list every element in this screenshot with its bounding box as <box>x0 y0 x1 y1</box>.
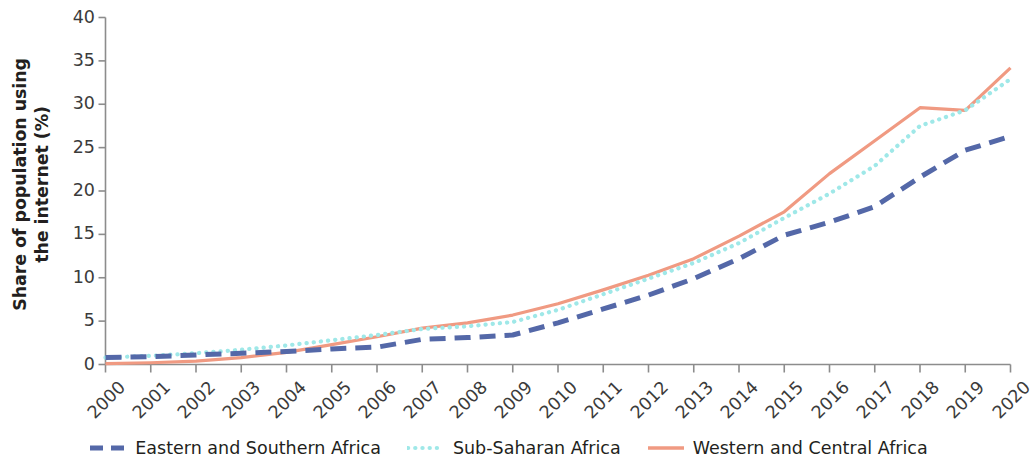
legend-item[interactable]: Western and Central Africa <box>647 438 928 458</box>
legend-swatch-icon <box>407 442 445 454</box>
legend-label: Eastern and Southern Africa <box>135 438 381 458</box>
axes <box>99 18 1011 373</box>
legend-item[interactable]: Eastern and Southern Africa <box>89 438 381 458</box>
legend-label: Sub-Saharan Africa <box>453 438 621 458</box>
chart-legend: Eastern and Southern AfricaSub-Saharan A… <box>0 433 1017 462</box>
series-line <box>106 79 1011 357</box>
legend-item[interactable]: Sub-Saharan Africa <box>407 438 621 458</box>
series-line <box>106 136 1011 357</box>
legend-swatch-icon <box>89 442 127 454</box>
legend-swatch-icon <box>647 442 685 454</box>
series-line <box>106 68 1011 364</box>
legend-label: Western and Central Africa <box>693 438 928 458</box>
data-series <box>106 68 1011 364</box>
